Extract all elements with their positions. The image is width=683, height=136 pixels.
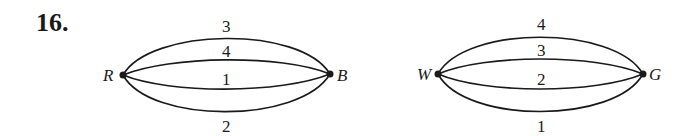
- edge-label: 2: [222, 117, 231, 136]
- vertex-label: W: [417, 65, 433, 84]
- multigraph-diagrams: R B 3 4 1 2 W G 4 3 2 1: [0, 0, 683, 136]
- edge-label: 4: [222, 42, 231, 61]
- edge-label: 1: [222, 70, 231, 89]
- graph-left: R B 3 4 1 2: [102, 17, 348, 136]
- vertex-dot: [640, 71, 647, 78]
- vertex-dot: [120, 72, 127, 79]
- vertex-dot: [327, 71, 334, 78]
- edge-label: 1: [537, 117, 546, 136]
- edge-label: 4: [537, 15, 546, 34]
- edge-label: 2: [537, 70, 546, 89]
- edge-label: 3: [537, 41, 546, 60]
- vertex-dot: [435, 71, 442, 78]
- edge-label: 3: [222, 17, 231, 36]
- vertex-label: R: [102, 66, 114, 85]
- vertex-label: B: [337, 66, 348, 85]
- graph-right: W G 4 3 2 1: [417, 15, 661, 136]
- vertex-label: G: [649, 65, 661, 84]
